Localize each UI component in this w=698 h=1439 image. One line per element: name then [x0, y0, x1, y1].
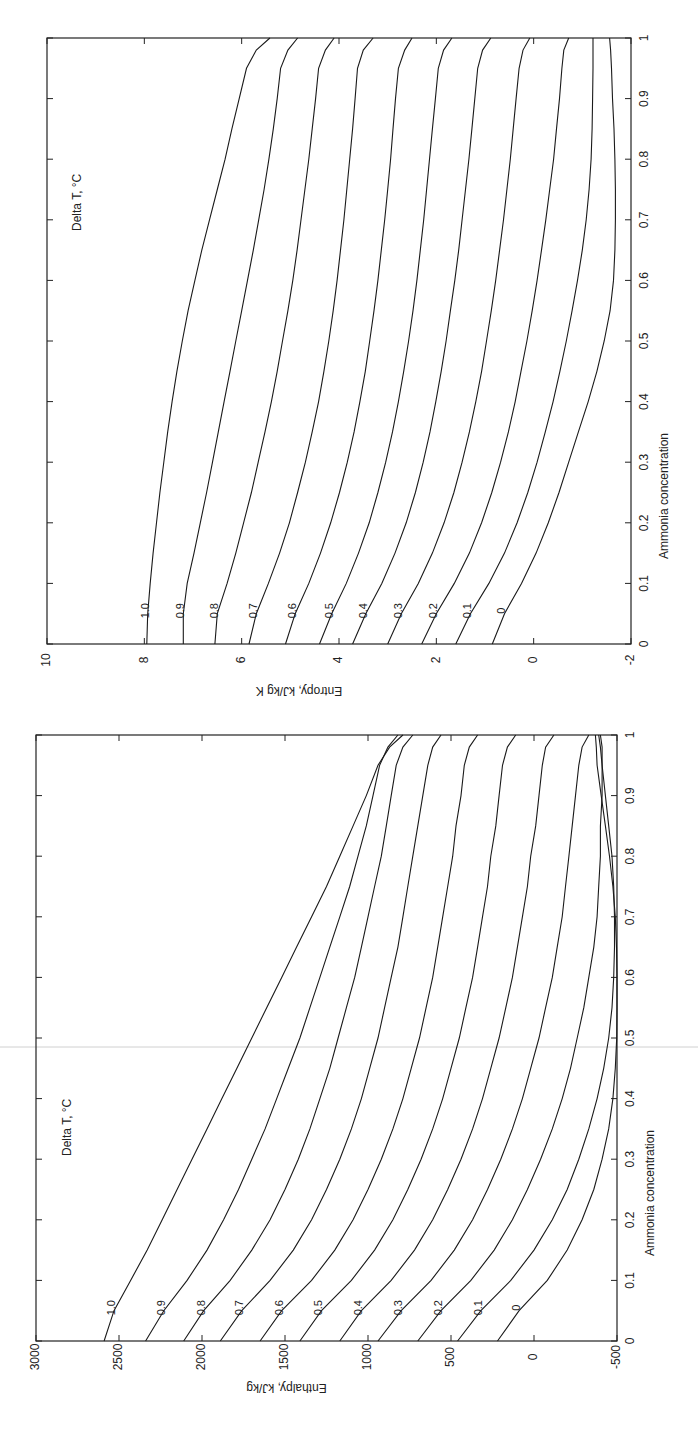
curve-label: 0.7	[233, 1300, 245, 1315]
x-tick-label: 0.5	[637, 332, 651, 349]
x-tick-label: 0.2	[623, 1211, 637, 1228]
curve-label: 0	[510, 1305, 522, 1311]
x-tick-label: 0.1	[623, 1272, 637, 1289]
curve-label: 0.6	[286, 603, 298, 618]
y-tick-label: 0	[526, 656, 540, 663]
delta-t-curve-1-0	[104, 735, 403, 1341]
y-tick-label: -2	[623, 654, 637, 665]
delta-t-curve-0-3	[378, 735, 589, 1341]
x-tick-label: 1	[623, 731, 637, 738]
figure-canvas: 00.10.20.30.40.50.60.70.80.91-20246810Am…	[0, 0, 698, 1439]
x-tick-label: 0.8	[623, 848, 637, 865]
delta-t-curve-0-9	[183, 38, 297, 644]
x-tick-label: 0.6	[623, 969, 637, 986]
curve-label: 1.0	[105, 1300, 117, 1315]
y-tick-label: 2000	[194, 1343, 208, 1370]
x-tick-label: 0.4	[637, 393, 651, 410]
y-tick-label: 10	[39, 653, 53, 667]
y-tick-label: 8	[137, 656, 151, 663]
curve-label: 0.8	[208, 603, 220, 618]
curve-label: 0.1	[472, 1300, 484, 1315]
curve-label: 0.1	[461, 603, 473, 618]
y-tick-label: 2500	[111, 1343, 125, 1370]
y-axis-label: Enthalpy, kJ/kg	[246, 1381, 326, 1395]
delta-t-curve-0-5	[300, 735, 516, 1341]
y-tick-label: -500	[609, 1345, 623, 1369]
x-axis-label: Ammonia concentration	[643, 1130, 657, 1256]
x-axis-label: Ammonia concentration	[657, 433, 671, 559]
curve-label: 0.8	[195, 1300, 207, 1315]
x-tick-label: 0.6	[637, 272, 651, 289]
x-tick-label: 0.9	[637, 90, 651, 107]
delta-t-curve-0-1	[456, 38, 593, 644]
y-tick-label: 500	[443, 1347, 457, 1367]
x-tick-label: 1	[637, 34, 651, 41]
curve-label: 0.4	[357, 603, 369, 618]
curve-label: 0.3	[392, 1300, 404, 1315]
curve-label: 1.0	[139, 603, 151, 618]
x-tick-label: 0.2	[637, 514, 651, 531]
curve-label: 0.2	[427, 603, 439, 618]
y-tick-label: 1500	[277, 1343, 291, 1370]
axes-frame	[36, 735, 617, 1341]
delta-t-curve-0	[492, 38, 615, 644]
delta-t-curve-0-7	[249, 38, 373, 644]
y-tick-label: 3000	[28, 1343, 42, 1370]
curve-label: 0.3	[392, 603, 404, 618]
curve-label: 0.9	[174, 603, 186, 618]
entropy-chart: 00.10.20.30.40.50.60.70.80.91-20246810Am…	[39, 34, 671, 697]
curve-label: 0.2	[432, 1300, 444, 1315]
curve-label: 0.5	[312, 1300, 324, 1315]
delta-t-curve-0	[498, 735, 618, 1341]
delta-t-curve-1-0	[147, 38, 270, 644]
x-tick-label: 0.3	[623, 1151, 637, 1168]
x-tick-label: 0.8	[637, 151, 651, 168]
y-tick-label: 6	[234, 656, 248, 663]
delta-t-curve-0-6	[286, 38, 413, 644]
y-tick-label: 4	[331, 656, 345, 663]
x-tick-label: 0.1	[637, 575, 651, 592]
y-tick-label: 0	[526, 1353, 540, 1360]
curve-label: 0.4	[352, 1300, 364, 1315]
delta-t-curve-0-9	[146, 735, 398, 1341]
x-tick-label: 0.7	[623, 908, 637, 925]
delta-t-curve-0-7	[220, 735, 441, 1341]
x-tick-label: 0	[637, 640, 651, 647]
legend-title: Delta T, °C	[60, 1098, 74, 1156]
delta-t-curve-0-8	[215, 38, 334, 644]
curve-label: 0.5	[323, 603, 335, 618]
x-tick-label: 0.7	[637, 211, 651, 228]
delta-t-curve-0-4	[353, 38, 491, 644]
enthalpy-chart: 00.10.20.30.40.50.60.70.80.91-5000500100…	[28, 731, 657, 1394]
x-tick-label: 0.9	[623, 787, 637, 804]
curve-label: 0.9	[155, 1300, 167, 1315]
delta-t-curve-0-2	[422, 38, 569, 644]
legend-title: Delta T, °C	[70, 173, 84, 231]
curve-label: 0.7	[247, 603, 259, 618]
y-axis-label: Entropy, kJ/kg K	[256, 684, 342, 698]
x-tick-label: 0	[623, 1337, 637, 1344]
delta-t-curve-0-4	[340, 735, 554, 1341]
x-tick-label: 0.5	[623, 1029, 637, 1046]
y-tick-label: 1000	[360, 1343, 374, 1370]
curve-label: 0.6	[273, 1300, 285, 1315]
y-tick-label: 2	[429, 656, 443, 663]
axes-frame	[47, 38, 631, 644]
x-tick-label: 0.4	[623, 1090, 637, 1107]
x-tick-label: 0.3	[637, 454, 651, 471]
curve-label: 0	[495, 608, 507, 614]
delta-t-curve-0-2	[418, 735, 602, 1341]
